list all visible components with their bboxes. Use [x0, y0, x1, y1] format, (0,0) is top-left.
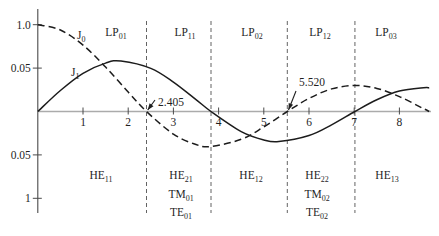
bessel-mode-cutoff-chart: 123456781.00.050.051J0J12.4055.520LP01LP… [0, 0, 439, 236]
bottom-mode-label-HE12-main: HE [239, 169, 254, 181]
bottom-mode-label-TE02-main: TE [306, 206, 320, 218]
top-mode-label-LP01-main: LP [105, 26, 118, 38]
x-tick-label-1: 1 [80, 116, 86, 128]
top-mode-label-LP11-sub: 11 [188, 32, 196, 41]
bottom-mode-label-TM02: TM02 [304, 188, 329, 203]
x-tick-label-8: 8 [397, 116, 403, 128]
bottom-mode-label-TM01: TM01 [168, 188, 193, 203]
x-tick-label-2: 2 [125, 116, 131, 128]
bottom-mode-label-HE13-sub: 13 [391, 175, 399, 184]
bottom-mode-label-HE13: HE13 [375, 169, 398, 184]
top-mode-label-LP12: LP12 [309, 26, 330, 41]
top-mode-label-LP12-sub: 12 [323, 32, 331, 41]
annotation-label-1: 5.520 [299, 76, 325, 88]
top-mode-label-LP03-sub: 03 [389, 32, 397, 41]
bottom-mode-label-TE02: TE02 [306, 206, 328, 221]
top-mode-label-LP03: LP03 [375, 26, 396, 41]
bottom-mode-label-HE21-sub: 21 [185, 175, 193, 184]
curve-label-J0-sub: 0 [81, 35, 85, 44]
bottom-mode-label-HE12-sub: 12 [255, 175, 263, 184]
bottom-mode-label-HE21-main: HE [169, 169, 184, 181]
chart-canvas: 123456781.00.050.051J0J12.4055.520LP01LP… [0, 0, 439, 236]
curve-J0 [38, 25, 429, 147]
bottom-mode-label-HE11-sub: 11 [105, 175, 113, 184]
top-mode-label-LP02-main: LP [241, 26, 254, 38]
y-tick-label-3: 1 [25, 192, 31, 204]
top-mode-label-LP01: LP01 [105, 26, 126, 41]
x-tick-label-3: 3 [171, 116, 177, 128]
top-mode-label-LP11-main: LP [174, 26, 187, 38]
bottom-mode-label-HE21: HE21 [169, 169, 192, 184]
curve-label-J1-sub: 1 [75, 72, 79, 81]
bottom-mode-label-TM02-sub: 02 [322, 194, 330, 203]
bottom-mode-label-HE22: HE22 [305, 169, 328, 184]
bottom-mode-label-HE13-main: HE [375, 169, 390, 181]
bottom-mode-label-TE02-sub: 02 [320, 212, 328, 221]
bottom-mode-label-HE11: HE11 [89, 169, 112, 184]
annotation-arrow-0-head [148, 103, 154, 110]
y-tick-label-0: 1.0 [16, 19, 31, 31]
curve-J1 [38, 61, 429, 142]
bottom-mode-label-TM01-main: TM [168, 188, 185, 200]
top-mode-label-LP02: LP02 [241, 26, 262, 41]
bottom-mode-label-HE12: HE12 [239, 169, 262, 184]
bottom-mode-label-HE22-sub: 22 [321, 175, 329, 184]
bottom-mode-label-TE01: TE01 [170, 206, 192, 221]
y-tick-label-1: 0.05 [11, 62, 31, 74]
bottom-mode-label-HE22-main: HE [305, 169, 320, 181]
top-mode-label-LP11: LP11 [174, 26, 195, 41]
x-tick-label-7: 7 [351, 116, 357, 128]
bottom-mode-label-TE01-sub: 01 [184, 212, 192, 221]
annotation-label-0: 2.405 [158, 96, 184, 108]
top-mode-label-LP02-sub: 02 [255, 32, 263, 41]
top-mode-label-LP03-main: LP [375, 26, 388, 38]
top-mode-label-LP01-sub: 01 [119, 32, 127, 41]
bottom-mode-label-TM01-sub: 01 [186, 194, 194, 203]
x-tick-label-6: 6 [306, 116, 312, 128]
bottom-mode-label-HE11-main: HE [89, 169, 104, 181]
top-mode-label-LP12-main: LP [309, 26, 322, 38]
bottom-mode-label-TE01-main: TE [170, 206, 184, 218]
curve-label-J1: J1 [71, 66, 79, 81]
y-tick-label-2: 0.05 [11, 149, 31, 161]
bottom-mode-label-TM02-main: TM [304, 188, 321, 200]
